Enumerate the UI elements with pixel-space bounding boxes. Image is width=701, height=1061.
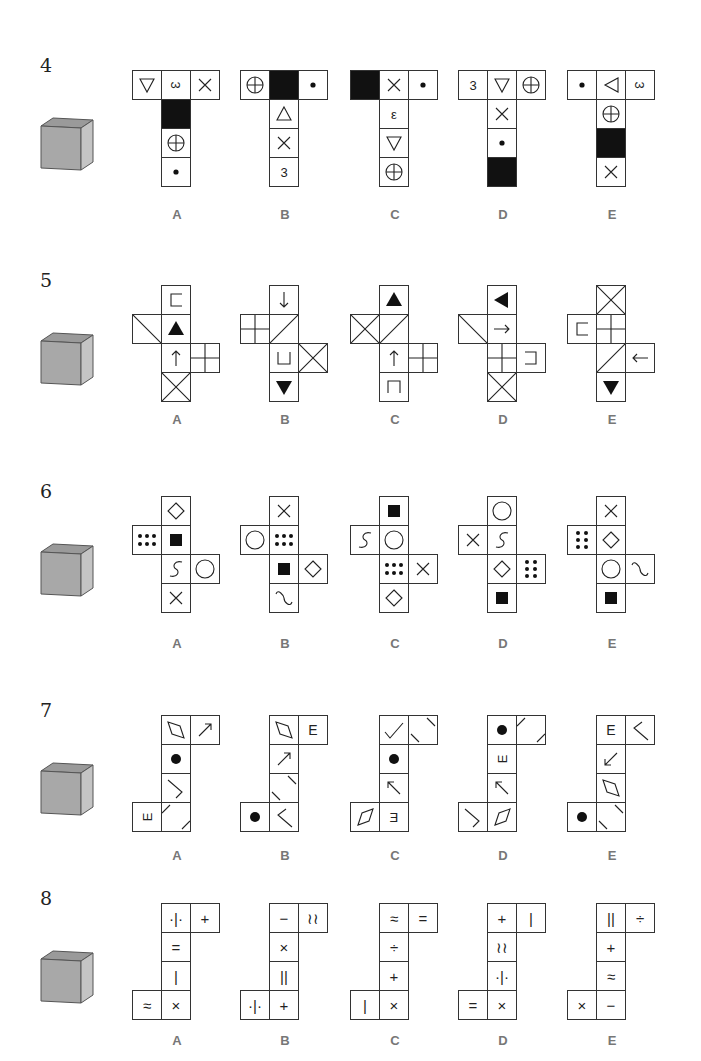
reference-cube-image bbox=[37, 114, 97, 174]
diag-bl-tr-icon bbox=[379, 314, 409, 344]
dot-bar-dot-icon: ·|· bbox=[240, 990, 270, 1020]
svg-text:E: E bbox=[308, 722, 317, 738]
dot-big-icon bbox=[161, 744, 191, 774]
epsilon-icon: ε bbox=[379, 99, 409, 129]
diag-bl-tr-icon bbox=[269, 314, 299, 344]
option-label-e[interactable]: E bbox=[597, 636, 627, 651]
option-label-e[interactable]: E bbox=[597, 848, 627, 863]
x-full-icon bbox=[298, 343, 328, 373]
3-rot-icon: 3 bbox=[625, 70, 655, 100]
dots-6-icon bbox=[379, 554, 409, 584]
bar-icon: | bbox=[516, 903, 546, 933]
corners-tl-br-icon bbox=[516, 715, 546, 745]
x-icon bbox=[458, 525, 488, 555]
dot-icon bbox=[487, 128, 517, 158]
option-label-a[interactable]: A bbox=[162, 412, 192, 427]
symbol-text: − bbox=[607, 998, 616, 1013]
symbol-text: = bbox=[419, 911, 428, 926]
plus-icon: + bbox=[379, 961, 409, 991]
black-face bbox=[350, 70, 380, 100]
circle-icon bbox=[379, 525, 409, 555]
symbol-text: + bbox=[390, 969, 399, 984]
approx-icon: ≈ bbox=[132, 990, 162, 1020]
bracket-right-icon bbox=[516, 343, 546, 373]
plus-icon: + bbox=[190, 903, 220, 933]
option-label-d[interactable]: D bbox=[488, 1033, 518, 1048]
option-label-c[interactable]: C bbox=[380, 412, 410, 427]
reference-cube-image bbox=[37, 540, 97, 600]
option-label-d[interactable]: D bbox=[488, 636, 518, 651]
tri-down-icon bbox=[132, 70, 162, 100]
plus-icon: + bbox=[596, 932, 626, 962]
symbol-text: ≀≀ bbox=[496, 940, 508, 955]
symbol-text: × bbox=[390, 998, 399, 1013]
symbol-text: ·|· bbox=[169, 911, 183, 926]
option-label-e[interactable]: E bbox=[597, 412, 627, 427]
corners-tr-bl-icon bbox=[408, 715, 438, 745]
dots-6-icon bbox=[269, 525, 299, 555]
times-icon: × bbox=[567, 990, 597, 1020]
x-icon bbox=[269, 128, 299, 158]
symbol-text: ≈ bbox=[607, 969, 615, 984]
option-label-c[interactable]: C bbox=[380, 848, 410, 863]
option-label-d[interactable]: D bbox=[488, 207, 518, 222]
circle-plus-icon bbox=[596, 99, 626, 129]
arrow-ur-icon bbox=[190, 715, 220, 745]
symbol-text: || bbox=[607, 911, 615, 926]
option-label-a[interactable]: A bbox=[162, 848, 192, 863]
option-label-e[interactable]: E bbox=[597, 207, 627, 222]
option-label-a[interactable]: A bbox=[162, 1033, 192, 1048]
approx-icon: ≈ bbox=[596, 961, 626, 991]
circle-plus-icon bbox=[379, 157, 409, 187]
s-curve-icon bbox=[350, 525, 380, 555]
circle-icon bbox=[240, 525, 270, 555]
symbol-text: + bbox=[280, 998, 289, 1013]
diag-tl-br-icon bbox=[458, 314, 488, 344]
diag-bl-tr-icon bbox=[596, 343, 626, 373]
svg-text:3: 3 bbox=[280, 165, 287, 180]
x-icon bbox=[161, 583, 191, 613]
dot-icon bbox=[161, 157, 191, 187]
diamond-icon bbox=[298, 554, 328, 584]
approx-icon: ≈ bbox=[379, 903, 409, 933]
option-label-e[interactable]: E bbox=[597, 1033, 627, 1048]
option-label-d[interactable]: D bbox=[488, 412, 518, 427]
square-fill-icon bbox=[596, 583, 626, 613]
symbol-text: × bbox=[172, 998, 181, 1013]
symbol-text: | bbox=[363, 998, 367, 1013]
bar-icon: | bbox=[350, 990, 380, 1020]
double-bar-icon: || bbox=[596, 903, 626, 933]
symbol-text: ≈ bbox=[390, 911, 398, 926]
option-label-b[interactable]: B bbox=[270, 848, 300, 863]
option-label-b[interactable]: B bbox=[270, 207, 300, 222]
x-icon bbox=[190, 70, 220, 100]
tri-up-icon bbox=[269, 99, 299, 129]
question-number: 7 bbox=[40, 699, 52, 721]
option-label-c[interactable]: C bbox=[380, 636, 410, 651]
option-label-d[interactable]: D bbox=[488, 848, 518, 863]
square-fill-icon bbox=[161, 525, 191, 555]
dots-6v-icon bbox=[516, 554, 546, 584]
question-number: 5 bbox=[40, 269, 52, 291]
option-label-b[interactable]: B bbox=[270, 636, 300, 651]
option-label-b[interactable]: B bbox=[270, 1033, 300, 1048]
option-label-a[interactable]: A bbox=[162, 207, 192, 222]
symbol-text: + bbox=[498, 911, 507, 926]
bracket-n-icon bbox=[379, 372, 409, 402]
3-rot-icon: 3 bbox=[161, 70, 191, 100]
option-label-c[interactable]: C bbox=[380, 207, 410, 222]
symbol-text: ·|· bbox=[495, 969, 509, 984]
dots-6v-icon bbox=[567, 525, 597, 555]
option-label-b[interactable]: B bbox=[270, 412, 300, 427]
symbol-text: = bbox=[469, 998, 478, 1013]
parallelogram-v-icon bbox=[269, 715, 299, 745]
x-full-icon bbox=[161, 372, 191, 402]
option-label-c[interactable]: C bbox=[380, 1033, 410, 1048]
equals-icon: = bbox=[458, 990, 488, 1020]
option-label-a[interactable]: A bbox=[162, 636, 192, 651]
s-curve-h-icon bbox=[269, 583, 299, 613]
dots-6-icon bbox=[132, 525, 162, 555]
circle-plus-icon bbox=[161, 128, 191, 158]
plus-icon: + bbox=[269, 990, 299, 1020]
symbol-text: ·|· bbox=[248, 998, 262, 1013]
